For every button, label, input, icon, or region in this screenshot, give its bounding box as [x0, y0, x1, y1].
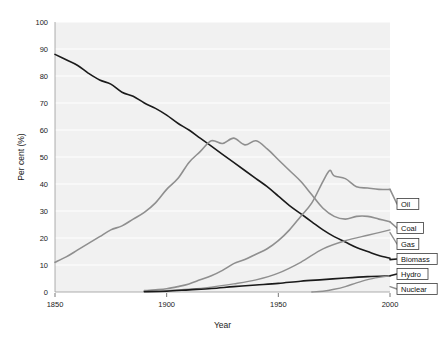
y-axis-title: Per cent (%) [16, 133, 26, 180]
x-tick-label: 1950 [270, 300, 287, 309]
x-axis-title: Year [214, 320, 231, 330]
legend-label-biomass: Biomass [401, 255, 430, 264]
y-tick-label: 100 [35, 18, 48, 27]
y-tick-label: 70 [40, 99, 48, 108]
y-tick-label: 50 [40, 153, 48, 162]
x-tick-label: 1900 [158, 300, 175, 309]
legend-label-nuclear: Nuclear [401, 285, 427, 294]
legend-leader-biomass [390, 259, 397, 260]
legend-label-hydro: Hydro [401, 270, 421, 279]
chart-canvas: 01020304050607080901001850190019502000Ye… [0, 0, 440, 344]
y-tick-label: 60 [40, 126, 48, 135]
y-tick-label: 40 [40, 180, 48, 189]
legend-label-gas: Gas [401, 240, 415, 249]
y-tick-label: 90 [40, 45, 48, 54]
x-tick-label: 1850 [47, 300, 64, 309]
y-tick-label: 0 [44, 288, 48, 297]
legend-leader-hydro [390, 274, 397, 276]
y-tick-label: 80 [40, 72, 48, 81]
energy-share-chart: 01020304050607080901001850190019502000Ye… [0, 0, 440, 344]
legend-leader-oil [390, 189, 397, 204]
legend-label-coal: Coal [401, 224, 417, 233]
y-tick-label: 10 [40, 261, 48, 270]
x-tick-label: 2000 [382, 300, 399, 309]
legend-leader-nuclear [390, 287, 397, 289]
legend-label-oil: Oil [401, 200, 411, 209]
legend-leader-coal [390, 222, 397, 228]
legend-leader-gas [390, 233, 397, 244]
y-tick-label: 20 [40, 234, 48, 243]
y-tick-label: 30 [40, 207, 48, 216]
